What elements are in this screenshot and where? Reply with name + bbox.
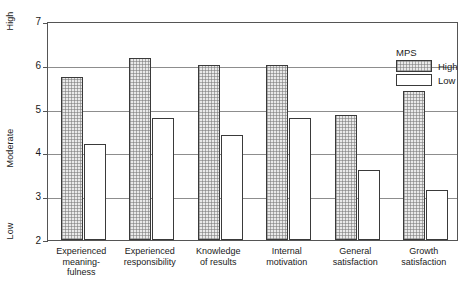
y-axis-tick-label: 5 <box>35 105 41 115</box>
legend-entry-high: High <box>384 60 475 72</box>
y-axis-tick <box>43 23 48 24</box>
legend-swatch-low-icon <box>396 74 432 86</box>
bar-chart: HighModerateLow 234567 MPS High Low Expe… <box>0 0 475 295</box>
legend-title: MPS <box>396 47 475 58</box>
y-axis-tick-label: 3 <box>35 192 41 202</box>
y-axis: HighModerateLow 234567 <box>0 0 47 295</box>
bar-low <box>426 190 448 240</box>
x-axis-category-label: Internal motivation <box>253 246 322 267</box>
legend-label-low: Low <box>438 75 455 86</box>
gridline <box>48 198 457 199</box>
x-axis-category-label: Knowledge of results <box>184 246 253 267</box>
legend: MPS High Low <box>384 47 475 88</box>
bar-low <box>289 118 311 240</box>
y-axis-tick <box>43 154 48 155</box>
gridline <box>48 154 457 155</box>
y-axis-tick-label: 2 <box>35 236 41 246</box>
x-axis-category-label: Experienced responsibility <box>116 246 185 267</box>
legend-entry-low: Low <box>384 74 475 86</box>
y-axis-region-label: Moderate <box>5 124 15 172</box>
y-axis-tick-label: 4 <box>35 148 41 158</box>
x-axis-category-label: General satisfaction <box>321 246 390 267</box>
y-axis-region-label: Low <box>5 207 15 255</box>
legend-swatch-high-icon <box>396 60 432 72</box>
y-axis-tick <box>43 67 48 68</box>
x-axis-category-label: Growth satisfaction <box>390 246 459 267</box>
bar-high <box>61 77 83 240</box>
y-axis-tick-label: 7 <box>35 17 41 27</box>
bar-high <box>335 115 357 240</box>
bar-high <box>198 65 220 240</box>
bar-low <box>152 118 174 240</box>
gridline <box>48 111 457 112</box>
bar-low <box>84 144 106 240</box>
y-axis-tick <box>43 111 48 112</box>
bar-high <box>129 58 151 240</box>
y-axis-tick <box>43 198 48 199</box>
x-axis-category-label: Experienced meaning- fulness <box>47 246 116 278</box>
bar-high <box>266 65 288 240</box>
bar-high <box>403 91 425 240</box>
legend-label-high: High <box>438 61 458 72</box>
y-axis-tick <box>43 241 48 242</box>
plot-area: MPS High Low <box>47 22 458 241</box>
y-axis-tick-label: 6 <box>35 61 41 71</box>
y-axis-region-label: High <box>5 0 15 45</box>
bar-low <box>358 170 380 240</box>
bar-low <box>221 135 243 240</box>
